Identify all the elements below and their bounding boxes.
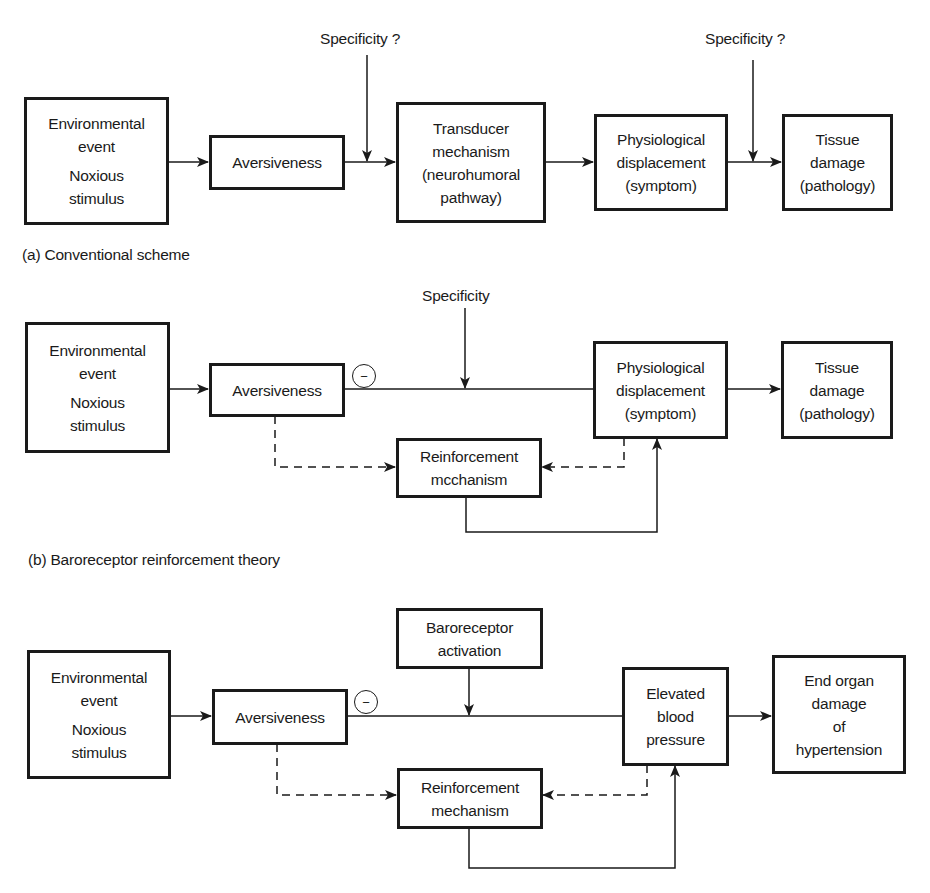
node-text: pressure — [646, 728, 705, 751]
node-environmental-event: Environmental event Noxious stimulus — [24, 97, 169, 225]
dashed-aversiveness-to-reinforcement-c — [277, 744, 396, 795]
node-aversiveness: Aversiveness — [209, 135, 345, 190]
node-text: (pathology) — [800, 174, 875, 197]
node-physiological-displacement: Physiological displacement (symptom) — [594, 114, 728, 211]
node-text: mechanism — [431, 799, 508, 822]
node-text: pathway) — [440, 186, 501, 209]
node-text: Physiological — [617, 356, 705, 379]
node-text: mcchanism — [431, 468, 508, 491]
node-text: Reinforcement — [421, 776, 519, 799]
node-text: (symptom) — [625, 174, 696, 197]
node-text: (neurohumoral — [422, 163, 520, 186]
node-aversiveness: Aversiveness — [209, 363, 345, 417]
node-elevated-blood-pressure: Elevated blood pressure — [622, 667, 729, 766]
node-text: (pathology) — [799, 402, 874, 425]
dashed-elevated-bp-to-reinforcement-c — [543, 765, 647, 795]
node-text: Noxious — [69, 164, 124, 187]
node-text: stimulus — [70, 414, 125, 437]
node-text: stimulus — [69, 187, 124, 210]
node-text: event — [78, 135, 115, 158]
node-text: damage — [810, 151, 865, 174]
node-text: Aversiveness — [232, 151, 322, 174]
node-text: (symptom) — [625, 402, 696, 425]
specificity-label-1: Specificity ? — [320, 30, 400, 48]
caption-b: (b) Baroreceptor reinforcement theory — [28, 551, 280, 569]
node-text: event — [81, 689, 118, 712]
node-transducer-mechanism: Transducer mechanism (neurohumoral pathw… — [396, 102, 546, 223]
node-text: displacement — [617, 151, 706, 174]
node-tissue-damage: Tissue damage (pathology) — [781, 341, 893, 439]
node-text: Tissue — [816, 128, 860, 151]
specificity-label-2: Specificity ? — [705, 30, 785, 48]
node-text: Transducer — [433, 117, 509, 140]
node-physiological-displacement: Physiological displacement (symptom) — [593, 341, 728, 439]
node-text: Baroreceptor — [426, 616, 513, 639]
node-text: event — [79, 362, 116, 385]
node-text: Reinforcement — [420, 445, 518, 468]
node-text: Environmental — [51, 666, 147, 689]
node-text: displacement — [616, 379, 705, 402]
node-text: Physiological — [617, 128, 705, 151]
node-text: Environmental — [49, 339, 145, 362]
node-text: End organ — [804, 669, 874, 692]
node-text: Aversiveness — [232, 379, 322, 402]
node-reinforcement-mechanism: Reinforcement mechanism — [397, 768, 543, 829]
node-environmental-event: Environmental event Noxious stimulus — [25, 322, 170, 453]
node-tissue-damage: Tissue damage (pathology) — [782, 114, 893, 211]
node-end-organ-damage: End organ damage of hypertension — [772, 655, 906, 774]
node-text: activation — [438, 639, 501, 662]
node-text: Aversiveness — [235, 706, 325, 729]
node-text: damage — [812, 692, 867, 715]
node-text: Noxious — [70, 391, 125, 414]
dashed-aversiveness-to-reinforcement-b — [275, 416, 395, 467]
dashed-physiological-to-reinforcement-b — [542, 438, 624, 467]
node-baroreceptor-activation: Baroreceptor activation — [396, 608, 543, 669]
specificity-label: Specificity — [422, 287, 490, 305]
node-text: mechanism — [432, 140, 509, 163]
node-text: stimulus — [71, 741, 126, 764]
node-environmental-event: Environmental event Noxious stimulus — [27, 650, 171, 779]
node-reinforcement-mechanism: Reinforcement mcchanism — [396, 438, 542, 498]
node-text: of — [833, 715, 846, 738]
caption-a: (a) Conventional scheme — [22, 246, 190, 264]
node-text: Environmental — [48, 112, 144, 135]
inhibition-minus-icon: − — [354, 690, 378, 714]
node-text: hypertension — [796, 738, 882, 761]
node-aversiveness: Aversiveness — [212, 689, 348, 745]
node-text: damage — [810, 379, 865, 402]
node-text: Elevated — [646, 682, 705, 705]
node-text: Tissue — [815, 356, 859, 379]
inhibition-minus-icon: − — [352, 364, 376, 388]
node-text: Noxious — [72, 718, 127, 741]
node-text: blood — [657, 705, 694, 728]
